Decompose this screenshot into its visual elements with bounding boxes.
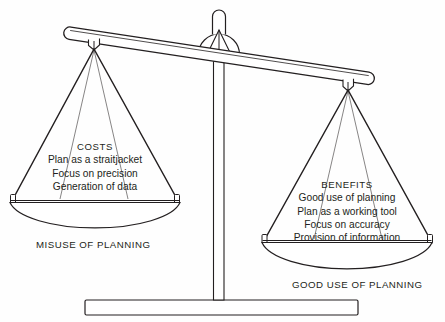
right-pan-caption: GOOD USE OF PLANNING — [292, 279, 423, 290]
right-pan-string-inner — [314, 91, 382, 239]
left-pan-bowl — [10, 203, 180, 228]
right-pan-strings — [265, 90, 430, 239]
left-pan-strings — [13, 49, 177, 199]
base-plate — [85, 300, 358, 315]
right-pan-bowl — [262, 243, 432, 269]
right-hanger — [343, 79, 354, 91]
balance-scale-diagram: COSTS Plan as a straitjacket Focus on pr… — [0, 0, 445, 322]
scale-illustration — [0, 0, 445, 322]
left-pan-string-inner — [60, 50, 128, 199]
center-column — [214, 30, 225, 300]
left-pan-caption: MISUSE OF PLANNING — [36, 239, 151, 250]
